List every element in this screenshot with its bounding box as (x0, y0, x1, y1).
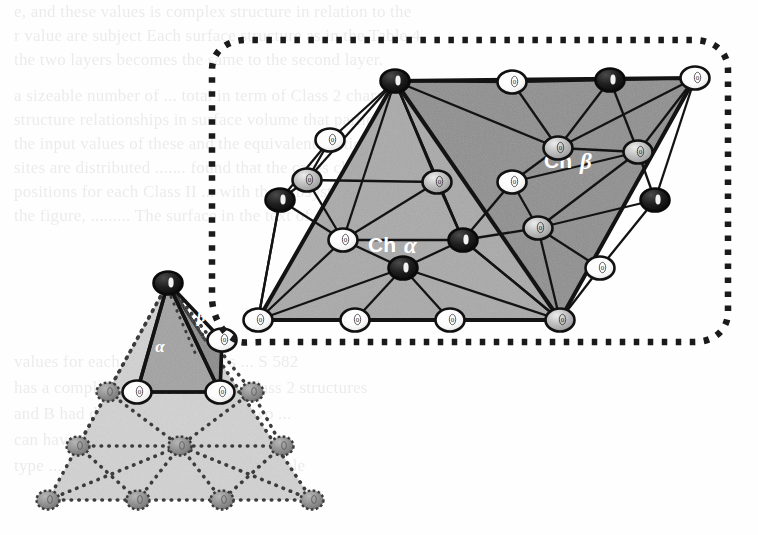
lattice-node-black[interactable] (641, 189, 670, 212)
lattice-node-white[interactable] (341, 309, 370, 332)
lattice-node-black[interactable] (266, 189, 295, 212)
lattice-node-gray[interactable] (624, 141, 653, 164)
label-ch-alpha-symbol: α (404, 233, 418, 258)
lattice-node-dotted (241, 383, 264, 402)
tetra-label-alpha: α (155, 337, 165, 356)
lattice-node-black[interactable] (596, 69, 625, 92)
lattice-node-dotted (127, 491, 150, 510)
tetra-node-white[interactable] (206, 381, 235, 404)
lattice-node-white[interactable] (498, 71, 527, 94)
label-ch-beta-symbol: β (579, 149, 592, 174)
tetra-node-white[interactable] (123, 381, 152, 404)
lattice-node-dotted (67, 437, 90, 456)
lattice-node-white[interactable] (244, 309, 273, 332)
tetra-node-apex-black[interactable] (154, 272, 183, 295)
lattice-node-dotted (271, 437, 294, 456)
lattice-node-white[interactable] (316, 129, 345, 152)
lattice-node-white[interactable] (681, 67, 710, 90)
lattice-node-gray[interactable] (293, 169, 322, 192)
lattice-node-gray[interactable] (423, 171, 452, 194)
lattice-node-black[interactable] (449, 229, 478, 252)
lattice-node-dotted (169, 437, 192, 456)
figure-canvas: e, and these values is complex structure… (0, 0, 758, 535)
label-ch-alpha-prefix: Ch (368, 233, 396, 256)
lattice-node-dotted (211, 491, 234, 510)
lattice-node-black[interactable] (381, 70, 410, 93)
lattice-node-dotted (37, 491, 60, 510)
parallelogram-lattice[interactable]: Ch α Ch β (244, 67, 710, 332)
lattice-node-white[interactable] (498, 171, 527, 194)
lattice-node-dotted (97, 383, 120, 402)
lattice-node-white[interactable] (586, 257, 615, 280)
lattice-node-gray[interactable] (544, 137, 573, 160)
lattice-node-gray[interactable] (524, 217, 553, 240)
lattice-node-black[interactable] (389, 257, 418, 280)
lattice-node-white[interactable] (436, 309, 465, 332)
lattice-node-gray[interactable] (546, 309, 575, 332)
lattice-node-white[interactable] (329, 229, 358, 252)
lattice-node-dotted (301, 491, 324, 510)
diagram-svg: 0 0 (0, 0, 758, 535)
tetra-label-beta: β (196, 307, 206, 326)
